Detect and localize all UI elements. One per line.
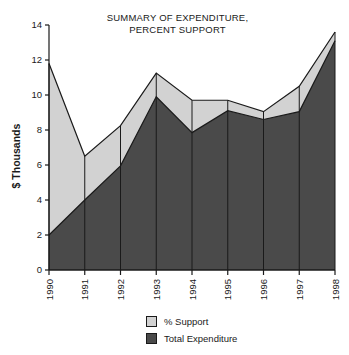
legend-label-total-expenditure: Total Expenditure: [164, 333, 237, 344]
svg-text:2: 2: [37, 229, 42, 240]
legend-swatch-support: [146, 316, 157, 327]
expenditure-area-chart: SUMMARY OF EXPENDITURE, PERCENT SUPPORT …: [0, 0, 349, 355]
legend-label-support: % Support: [164, 316, 208, 327]
svg-text:1998: 1998: [330, 279, 341, 300]
svg-text:1996: 1996: [258, 279, 269, 300]
svg-text:1990: 1990: [44, 279, 55, 300]
legend-item-support: % Support: [146, 313, 237, 330]
svg-text:14: 14: [31, 19, 42, 30]
plot-area: 02468101214 1990199119921993199419951996…: [0, 0, 349, 355]
svg-text:4: 4: [37, 194, 42, 205]
chart-legend: % Support Total Expenditure: [146, 313, 237, 347]
svg-text:1997: 1997: [294, 279, 305, 300]
svg-text:1991: 1991: [79, 279, 90, 300]
svg-text:10: 10: [31, 89, 42, 100]
svg-text:0: 0: [37, 264, 42, 275]
svg-text:1995: 1995: [222, 279, 233, 300]
svg-text:6: 6: [37, 159, 42, 170]
svg-text:1993: 1993: [151, 279, 162, 300]
svg-text:1994: 1994: [187, 279, 198, 300]
legend-item-total-expenditure: Total Expenditure: [146, 330, 237, 347]
y-axis-ticks: 02468101214: [31, 19, 49, 275]
x-axis-ticks: 199019911992199319941995199619971998: [44, 270, 341, 300]
svg-text:12: 12: [31, 54, 42, 65]
legend-swatch-total-expenditure: [146, 333, 157, 344]
svg-text:1992: 1992: [115, 279, 126, 300]
svg-text:8: 8: [37, 124, 42, 135]
